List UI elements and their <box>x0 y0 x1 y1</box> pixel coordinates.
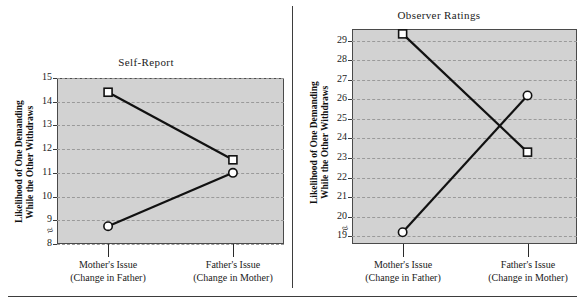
y-tick-label: 24 <box>326 131 347 142</box>
x-tick-label-line1: Mother's Issue <box>374 259 432 270</box>
y-tick-mark <box>53 78 57 79</box>
y-tick-label: 20 <box>326 210 347 221</box>
gridline <box>352 236 577 237</box>
x-tick-mark-fathers-issue <box>233 244 234 257</box>
gridline <box>352 99 577 100</box>
x-tick-label-mothers-issue: Mother's Issue (Change in Father) <box>333 258 473 284</box>
panel-title-observer-ratings: Observer Ratings <box>293 9 585 21</box>
gridline <box>352 217 577 218</box>
y-tick-mark <box>348 99 352 100</box>
y-tick-mark <box>348 119 352 120</box>
y-axis-label-line1: Likelihood of One Demanding <box>309 81 319 204</box>
y-tick-label: 28 <box>326 53 347 64</box>
gridline <box>57 220 284 221</box>
chart-panel-self-report: Self-Report Likelihood of One Demanding … <box>0 0 292 304</box>
x-tick-label-fathers-issue: Father's Issue (Change in Mother) <box>458 258 585 284</box>
x-tick-label-mothers-issue: Mother's Issue (Change in Father) <box>38 258 178 284</box>
y-tick-label: 14 <box>31 95 52 106</box>
y-tick-mark <box>53 102 57 103</box>
y-tick-mark <box>348 41 352 42</box>
y-tick-mark <box>348 197 352 198</box>
gridline <box>352 158 577 159</box>
gridline <box>57 78 284 79</box>
y-tick-label: 29 <box>326 34 347 45</box>
y-axis-label-line1: Likelihood of One Demanding <box>14 101 24 224</box>
x-tick-label-line2: (Change in Father) <box>70 272 146 283</box>
y-tick-mark <box>348 236 352 237</box>
y-tick-mark <box>348 178 352 179</box>
y-tick-mark <box>348 217 352 218</box>
gridline <box>352 197 577 198</box>
x-tick-label-line1: Father's Issue <box>206 259 260 270</box>
y-tick-mark <box>348 80 352 81</box>
x-tick-mark-mothers-issue <box>108 244 109 257</box>
gridline <box>57 102 284 103</box>
y-tick-label: 15 <box>31 71 52 82</box>
x-tick-label-line2: (Change in Mother) <box>193 272 272 283</box>
gridline <box>352 60 577 61</box>
y-tick-mark <box>53 173 57 174</box>
x-tick-label-line1: Mother's Issue <box>79 259 137 270</box>
x-tick-label-line2: (Change in Mother) <box>488 272 567 283</box>
axis-break-icon: ≈ <box>45 223 55 236</box>
y-tick-mark <box>348 60 352 61</box>
figure-root: Self-Report Likelihood of One Demanding … <box>0 0 585 304</box>
y-tick-mark <box>53 197 57 198</box>
y-tick-mark <box>53 149 57 150</box>
gridline <box>57 197 284 198</box>
y-tick-mark <box>53 220 57 221</box>
gridline <box>352 178 577 179</box>
gridline <box>57 244 284 245</box>
y-tick-mark <box>348 138 352 139</box>
y-tick-label: 22 <box>326 171 347 182</box>
chart-panel-observer-ratings: Observer Ratings Likelihood of One Deman… <box>293 0 585 304</box>
gridline <box>57 173 284 174</box>
plot-area-self-report <box>57 78 284 244</box>
y-tick-label: 10 <box>31 190 52 201</box>
gridline <box>352 119 577 120</box>
gridline <box>352 138 577 139</box>
x-tick-mark-mothers-issue <box>403 244 404 257</box>
y-tick-label: 8 <box>31 237 52 248</box>
y-tick-label: 27 <box>326 73 347 84</box>
y-tick-label: 25 <box>326 112 347 123</box>
y-tick-label: 9 <box>31 213 52 224</box>
y-tick-label: 26 <box>326 92 347 103</box>
y-tick-mark <box>53 125 57 126</box>
y-tick-mark <box>53 244 57 245</box>
panel-divider-vertical <box>292 6 293 288</box>
y-tick-label: 11 <box>31 166 52 177</box>
y-tick-label: 12 <box>31 142 52 153</box>
y-tick-label: 21 <box>326 190 347 201</box>
y-tick-label: 13 <box>31 118 52 129</box>
panel-title-self-report: Self-Report <box>0 56 292 68</box>
x-tick-label-line2: (Change in Father) <box>365 272 441 283</box>
x-tick-mark-fathers-issue <box>528 244 529 257</box>
figure-rule-bottom <box>8 296 577 297</box>
gridline <box>352 80 577 81</box>
gridline <box>57 149 284 150</box>
x-tick-label-fathers-issue: Father's Issue (Change in Mother) <box>163 258 303 284</box>
gridline <box>57 125 284 126</box>
y-tick-label: 23 <box>326 151 347 162</box>
x-tick-label-line1: Father's Issue <box>501 259 555 270</box>
gridline <box>352 41 577 42</box>
y-tick-mark <box>348 158 352 159</box>
